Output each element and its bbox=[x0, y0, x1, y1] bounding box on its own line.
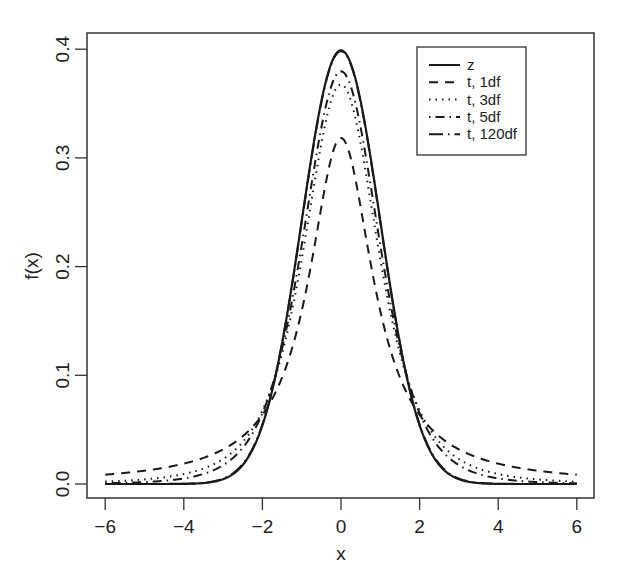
legend-label: t, 5df bbox=[467, 108, 501, 125]
density-chart: −6−4−20246 0.00.10.20.30.4 x f(x) zt, 1d… bbox=[0, 0, 627, 582]
y-axis-label: f(x) bbox=[21, 252, 42, 279]
legend-label: t, 1df bbox=[467, 73, 501, 90]
y-tick-label: 0.1 bbox=[52, 362, 73, 388]
legend: zt, 1dft, 3dft, 5dft, 120df bbox=[417, 47, 526, 155]
x-tick-label: −6 bbox=[94, 516, 116, 537]
x-tick-label: 2 bbox=[414, 516, 425, 537]
legend-label: t, 120df bbox=[467, 125, 518, 142]
y-tick-label: 0.2 bbox=[52, 253, 73, 279]
curve-t-1df bbox=[105, 138, 577, 475]
x-tick-label: 0 bbox=[336, 516, 347, 537]
x-tick-label: −2 bbox=[252, 516, 274, 537]
y-tick-label: 0.3 bbox=[52, 145, 73, 171]
legend-label: t, 3df bbox=[467, 91, 501, 108]
x-tick-label: −4 bbox=[173, 516, 195, 537]
legend-label: z bbox=[467, 56, 475, 73]
x-tick-label: 6 bbox=[572, 516, 583, 537]
x-tick-label: 4 bbox=[493, 516, 504, 537]
y-tick-label: 0.4 bbox=[52, 36, 73, 63]
y-axis: 0.00.10.20.30.4 bbox=[52, 36, 87, 498]
x-axis: −6−4−20246 bbox=[94, 498, 582, 537]
x-axis-label: x bbox=[336, 543, 346, 564]
y-tick-label: 0.0 bbox=[52, 471, 73, 497]
